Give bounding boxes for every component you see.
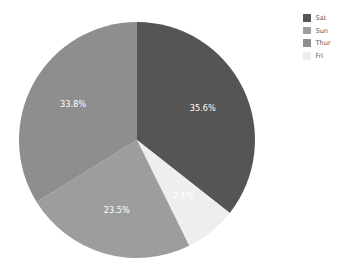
pie-svg: 35.6%7.1%23.5%33.8% (0, 0, 276, 265)
legend-label-sun: Sun (316, 27, 329, 35)
legend-item-fri[interactable]: Fri (303, 52, 361, 60)
pie-slice-label-thur: 33.8% (60, 99, 86, 109)
legend-item-sat[interactable]: Sat (303, 14, 361, 22)
legend-swatch-fri (303, 52, 311, 60)
pie-slice-label-fri: 7.1% (173, 191, 194, 201)
pie-slices-group (19, 22, 255, 258)
legend-item-sun[interactable]: Sun (303, 27, 361, 35)
pie-plot-area: 35.6%7.1%23.5%33.8% (0, 0, 276, 265)
pie-slice-label-sun: 23.5% (104, 205, 130, 215)
legend-swatch-sat (303, 14, 311, 22)
legend-label-thur: Thur (316, 39, 331, 47)
chart-legend: SatSunThurFri (303, 14, 361, 60)
legend-item-thur[interactable]: Thur (303, 39, 361, 47)
pie-slice-label-sat: 35.6% (190, 103, 216, 113)
legend-swatch-thur (303, 39, 311, 47)
legend-label-sat: Sat (316, 14, 327, 22)
pie-chart-figure: 35.6%7.1%23.5%33.8% SatSunThurFri (0, 0, 361, 265)
legend-swatch-sun (303, 27, 311, 35)
legend-label-fri: Fri (316, 52, 324, 60)
